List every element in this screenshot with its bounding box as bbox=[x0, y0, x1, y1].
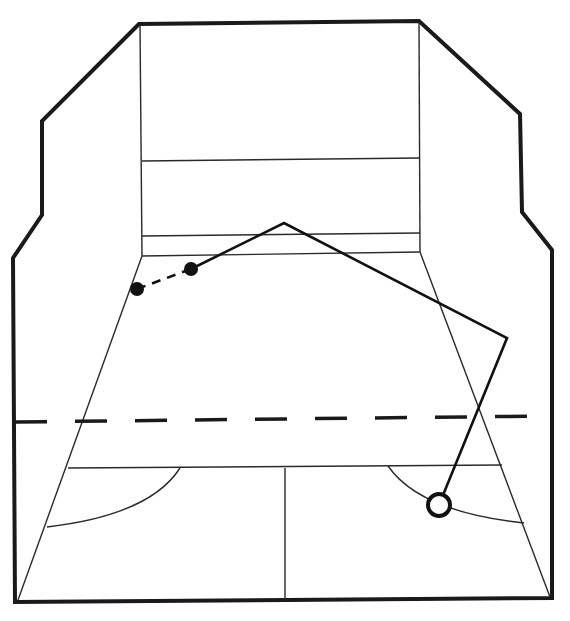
court-outline bbox=[13, 21, 552, 602]
front-wall-right-edge bbox=[419, 22, 420, 252]
short-line bbox=[68, 465, 502, 468]
front-wall-tin-line bbox=[142, 233, 420, 236]
ball-landing-circle bbox=[428, 494, 450, 516]
player-start-dot bbox=[130, 282, 144, 296]
approach-dashed-segment bbox=[137, 269, 191, 289]
left-floor-edge bbox=[18, 256, 142, 600]
front-wall-floor-line bbox=[142, 252, 420, 256]
ball-path bbox=[191, 223, 507, 505]
front-wall-left-edge bbox=[140, 24, 142, 256]
front-wall-service-line bbox=[142, 158, 420, 161]
dashed-reference-line bbox=[15, 416, 548, 422]
squash-court-diagram bbox=[0, 0, 570, 621]
contact-point-dot bbox=[184, 262, 198, 276]
left-service-box-arc bbox=[47, 468, 180, 527]
